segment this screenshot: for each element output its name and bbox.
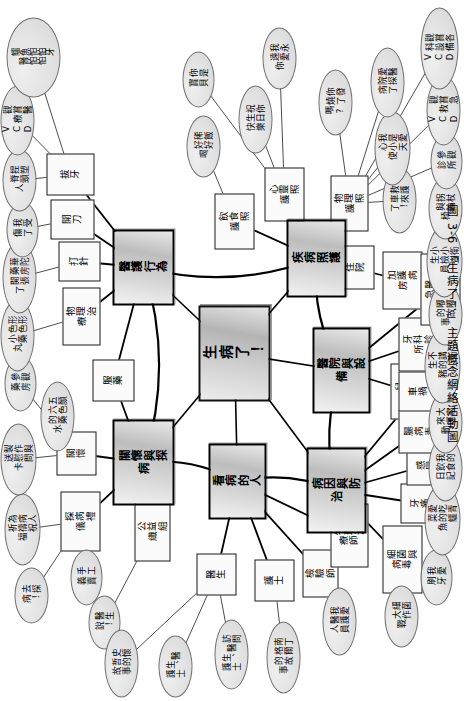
leaf-label: 華陀藥房開張了 bbox=[5, 259, 34, 295]
leaf-label: 愛醫院探病了 bbox=[373, 68, 402, 95]
node-label: 公益組織 bbox=[135, 521, 169, 541]
leaf-label: 參觀診所 bbox=[433, 152, 460, 170]
node-label: 細菌與病毒 bbox=[383, 549, 421, 569]
branch-node-cause: 病因與防治 bbox=[306, 447, 366, 533]
node-label: 打針 bbox=[68, 256, 89, 266]
node-label: 車禍 bbox=[407, 386, 428, 396]
subtopic-node-medicine: 服藥 bbox=[92, 359, 134, 401]
leaf-activity-node: 史懷哲的故事 bbox=[104, 629, 138, 697]
subtopic-node-charity: 公益組織 bbox=[134, 501, 170, 561]
leaf-activity-node: 祝你生日快樂 bbox=[238, 85, 272, 153]
node-label: 醫護行為 bbox=[118, 261, 168, 273]
leaf-label: 我永遠愛你 bbox=[265, 44, 294, 71]
node-label: 物理照護 bbox=[331, 193, 367, 213]
node-label: 生病了！ bbox=[202, 346, 266, 361]
leaf-activity-node: 觀賞各科設備 VCD bbox=[420, 7, 458, 89]
node-label: 開刀 bbox=[61, 214, 82, 224]
subtopic-node-mind-care: 心靈照護 bbox=[264, 167, 304, 221]
leaf-activity-node: 製作與送慰問卡 bbox=[0, 423, 36, 495]
leaf-activity-node: 去探病！ bbox=[14, 567, 48, 623]
leaf-activity-node: 你發燒了嗎? bbox=[318, 69, 352, 135]
branch-node-disease-care: 疾病照護 bbox=[286, 219, 346, 297]
leaf-activity-node: 訪問醫生、護士 bbox=[214, 619, 248, 689]
leaf-label: 觀賞各科設備 VCD bbox=[423, 34, 456, 61]
branch-node-hospital: 醫院與設備 bbox=[312, 327, 370, 413]
node-label: 病因與防治 bbox=[308, 478, 364, 502]
node-label: 飲食照護 bbox=[215, 211, 253, 231]
leaf-activity-node: 我是愛心小天使 bbox=[374, 111, 410, 185]
leaf-activity-node: 五顏六色的藥水 bbox=[40, 381, 74, 451]
leaf-label: 手工義賣 bbox=[73, 568, 100, 586]
leaf-label: 醫生、護士 bbox=[161, 652, 190, 679]
leaf-label: 訪問醫生、護士 bbox=[217, 636, 246, 672]
branch-node-medical: 醫護行為 bbox=[112, 229, 174, 305]
leaf-activity-node: 稀飯好好喝 bbox=[186, 115, 220, 177]
leaf-label: 五顏六色的藥水 bbox=[43, 398, 72, 434]
leaf-label: 醫生說！ bbox=[91, 613, 118, 631]
subtopic-node-doctor: 醫生 bbox=[196, 553, 236, 595]
leaf-label: 愛吃青菜的鱷魚 bbox=[427, 505, 458, 532]
concept-map-canvas: 探病禮儀關懷公益組織服藥物理治療打針開刀拔牙飲食照護心靈照護物理照護住院加護病房… bbox=[0, 0, 466, 701]
leaf-activity-node: 我愛刷牙 bbox=[420, 549, 452, 605]
leaf-label: 捏塑脊頸人 bbox=[5, 166, 34, 193]
branch-node-care-visit: 關懷與探病 bbox=[112, 419, 174, 505]
subtopic-node-nurse: 護士 bbox=[254, 559, 294, 601]
node-label: 拔牙 bbox=[59, 169, 80, 179]
node-label: 檢驗師 bbox=[304, 568, 336, 578]
node-label: 關懷與探病 bbox=[114, 450, 172, 474]
leaf-activity-node: 南丁格爾的故事 bbox=[266, 621, 300, 693]
leaf-label: 為病人祈禱祝福 bbox=[7, 515, 38, 542]
leaf-activity-node: 我愛醫護人員 bbox=[322, 587, 356, 655]
node-label: 服藥 bbox=[102, 375, 123, 385]
leaf-label: 觀賞醫療 VCD bbox=[1, 106, 33, 133]
node-label: 探病禮儀 bbox=[61, 511, 99, 531]
leaf-activity-node: 細菌大作戰 bbox=[384, 585, 418, 647]
subtopic-node-diet-care: 飲食照護 bbox=[214, 193, 254, 249]
leaf-label: 我受傷了 bbox=[9, 220, 36, 238]
leaf-label: 救護車來了！ bbox=[385, 186, 414, 213]
leaf-label: 你是寶貝 bbox=[185, 70, 212, 88]
subtopic-node-surgery: 開刀 bbox=[50, 199, 94, 239]
leaf-label: 去探病！ bbox=[17, 586, 46, 604]
leaf-label: 參觀藥房 bbox=[7, 374, 34, 392]
figure-page: 探病禮儀關懷公益組織服藥物理治療打針開刀拔牙飲食照護心靈照護物理照護住院加護病房… bbox=[0, 0, 466, 701]
subtopic-node-tooth-pull: 拔牙 bbox=[46, 153, 94, 195]
node-label: 醫生 bbox=[205, 569, 226, 579]
leaf-label: 觀賞急救 VCD bbox=[427, 96, 459, 123]
node-label: 物理治療 bbox=[63, 306, 99, 326]
branch-node-patients: 看病的人 bbox=[208, 443, 266, 519]
leaf-label: 我的飲食日記 bbox=[431, 454, 460, 481]
node-label: 加護病房 bbox=[383, 270, 421, 290]
subtopic-node-injection: 打針 bbox=[58, 241, 100, 281]
leaf-activity-node: 你是寶貝 bbox=[182, 51, 214, 107]
subtopic-node-icu: 加護病房 bbox=[382, 251, 422, 309]
leaf-activity-node: 鱷魚怕怕牙醫怕怕 bbox=[6, 17, 60, 97]
subtopic-node-bacteria: 細菌與病毒 bbox=[382, 525, 422, 593]
leaf-label: 製作與送慰問卡 bbox=[3, 445, 34, 472]
leaf-label: 史懷哲的故事 bbox=[107, 649, 136, 676]
leaf-label: 你發燒了嗎? bbox=[321, 88, 350, 115]
leaf-label: 我愛醫護人員 bbox=[325, 607, 354, 634]
leaf-activity-node: 我永遠愛你 bbox=[262, 27, 296, 89]
node-label: 心靈照護 bbox=[265, 184, 303, 204]
leaf-label: 形形色色小藥丸 bbox=[3, 317, 32, 353]
node-label: 住院 bbox=[344, 262, 365, 272]
leaf-label: 鱷魚怕怕牙醫怕怕 bbox=[9, 48, 58, 66]
node-label: 護士 bbox=[263, 575, 284, 585]
node-label: 醫院與設備 bbox=[314, 358, 368, 382]
subtopic-node-visit-etiquette: 探病禮儀 bbox=[60, 491, 100, 551]
node-label: 關懷 bbox=[65, 448, 86, 458]
leaf-label: 祝你生日快樂 bbox=[241, 105, 270, 132]
leaf-label: 我愛刷牙 bbox=[423, 568, 450, 586]
node-label: 看病的人 bbox=[212, 475, 262, 487]
leaf-activity-node: 醫生、護士 bbox=[158, 635, 192, 697]
leaf-label: 稀飯好好喝 bbox=[189, 132, 218, 159]
leaf-activity-node: 捏塑脊頸人 bbox=[2, 149, 36, 211]
leaf-activity-node: 愛醫院探病了 bbox=[370, 47, 404, 117]
leaf-label: 南丁格爾的故事 bbox=[269, 639, 298, 675]
subtopic-node-physio-treat: 物理治療 bbox=[62, 287, 100, 345]
leaf-activity-node: 手工義賣 bbox=[70, 549, 102, 605]
figure-caption: 圖 3-6 「生病了！」主題概念網絡活動圖 bbox=[444, 205, 460, 444]
node-label: 疾病照護 bbox=[291, 252, 341, 264]
leaf-label: 細菌大作戰 bbox=[387, 602, 416, 629]
